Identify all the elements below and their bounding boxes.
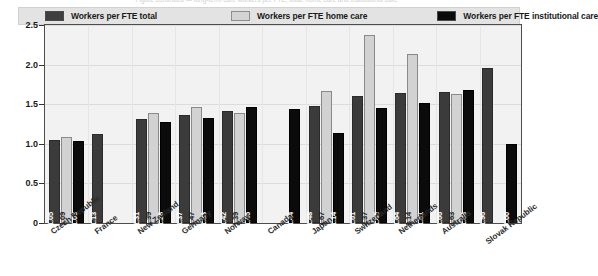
bar-group: 1.481.671.14 (305, 25, 348, 223)
y-axis: 00.51.01.52.02.5 (0, 24, 44, 224)
bar-group: 1.44 (261, 25, 304, 223)
bar-group: 1.311.391.28 (132, 25, 175, 223)
legend-item-institutional-care: Workers per FTE institutional care (437, 11, 598, 21)
bar-value-label: 1.64 (392, 212, 401, 226)
bar-group: 1.371.471.33 (175, 25, 218, 223)
y-tick-label: 1.0 (25, 139, 38, 149)
y-tick-label: 2.0 (25, 60, 38, 70)
bar[interactable]: 1.61 (352, 96, 363, 224)
bar-group: 1.961.00 (478, 25, 521, 223)
bar[interactable]: 1.00 (506, 144, 517, 223)
legend-label-institutional-care: Workers per FTE institutional care (463, 11, 598, 21)
bar-group: 1.421.391.46 (218, 25, 261, 223)
bar[interactable]: 1.33 (203, 118, 214, 223)
legend-item-total: Workers per FTE total (45, 11, 157, 21)
chart-legend: Workers per FTE total Workers per FTE ho… (18, 7, 520, 25)
bar[interactable]: 1.37 (179, 115, 190, 224)
bar[interactable]: 1.13 (92, 134, 103, 223)
bar-groups: 1.051.091.031.131.311.391.281.371.471.33… (45, 25, 521, 223)
bar-group: 1.051.091.03 (45, 25, 88, 223)
bar-group: 1.612.371.45 (348, 25, 391, 223)
bar-value-label: 1.66 (435, 212, 444, 226)
bar[interactable]: 1.67 (321, 91, 332, 223)
y-tick-label: 0.5 (25, 178, 38, 188)
bar-group: 1.661.631.68 (434, 25, 477, 223)
bar[interactable]: 1.96 (482, 68, 493, 223)
bar[interactable]: 1.14 (333, 133, 344, 223)
bar-value-label: 1.13 (89, 212, 98, 226)
y-tick-label: 2.5 (25, 20, 38, 30)
bar[interactable]: 1.48 (309, 106, 320, 223)
legend-swatch-institutional-care (437, 11, 456, 21)
bar[interactable]: 1.31 (136, 119, 147, 223)
bar[interactable]: 2.14 (407, 54, 418, 223)
legend-item-home-care: Workers per FTE home care (231, 11, 367, 21)
y-tick-label: 1.5 (25, 99, 38, 109)
bar-value-label: 1.48 (305, 212, 314, 226)
legend-label-total: Workers per FTE total (71, 11, 157, 21)
bar[interactable]: 1.39 (148, 113, 159, 223)
bar[interactable]: 1.05 (49, 140, 60, 223)
legend-swatch-total (45, 11, 64, 21)
bar-value-label: 1.37 (175, 212, 184, 226)
bar[interactable]: 1.47 (191, 107, 202, 223)
bar-value-label: 1.31 (132, 212, 141, 226)
bar-value-label: 1.61 (348, 212, 357, 226)
clipped-figure-caption: Figure continued — long-term care worker… (0, 0, 533, 7)
bar-value-label: 1.42 (219, 212, 228, 226)
bar[interactable]: 1.68 (463, 90, 474, 223)
bar[interactable]: 1.42 (222, 111, 233, 223)
bar[interactable]: 1.64 (395, 93, 406, 223)
y-tick-label: 0 (33, 218, 38, 228)
chart-plot-wrapper: 00.51.01.52.02.5 1.051.091.031.131.311.3… (0, 24, 533, 276)
bar[interactable]: 2.37 (364, 35, 375, 223)
bar[interactable]: 1.09 (61, 137, 72, 223)
bar-value-label: 1.05 (46, 212, 55, 226)
bar[interactable]: 1.66 (439, 92, 450, 223)
plot-area: 1.051.091.031.131.311.391.281.371.471.33… (44, 24, 522, 224)
legend-swatch-home-care (231, 11, 250, 21)
legend-label-home-care: Workers per FTE home care (257, 11, 367, 21)
bar[interactable]: 1.46 (246, 107, 257, 223)
bar[interactable]: 1.63 (451, 94, 462, 223)
bar-group: 1.642.141.51 (391, 25, 434, 223)
bar[interactable]: 1.39 (234, 113, 245, 223)
bar[interactable]: 1.44 (289, 109, 300, 223)
bar-value-label: 1.96 (478, 212, 487, 226)
x-axis-labels: Czech RepublicFranceNew ZealandGermanyNo… (44, 225, 522, 276)
